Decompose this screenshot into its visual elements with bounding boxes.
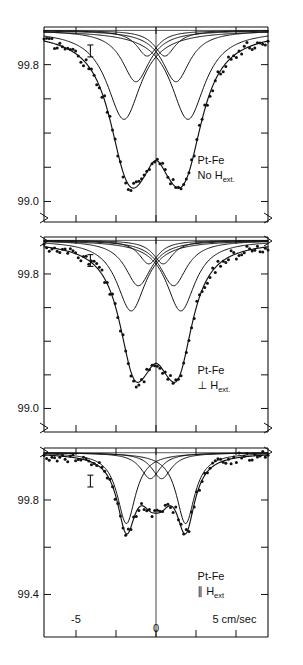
data-point bbox=[137, 383, 140, 386]
data-point bbox=[190, 158, 193, 161]
data-point bbox=[106, 476, 109, 479]
data-point bbox=[201, 290, 204, 293]
data-point bbox=[103, 281, 106, 284]
data-point bbox=[148, 368, 151, 371]
data-point bbox=[127, 188, 130, 191]
data-point bbox=[74, 251, 77, 254]
data-point bbox=[135, 515, 138, 518]
data-point bbox=[148, 508, 151, 511]
data-point bbox=[140, 502, 143, 505]
data-point bbox=[187, 530, 190, 533]
data-point bbox=[119, 160, 122, 163]
data-point bbox=[174, 378, 177, 381]
data-point bbox=[182, 183, 185, 186]
y-axis-label: 99.8 bbox=[18, 494, 39, 506]
data-point bbox=[145, 368, 148, 371]
data-point bbox=[111, 128, 114, 131]
data-point bbox=[58, 251, 61, 254]
data-point bbox=[129, 189, 132, 192]
data-point bbox=[164, 168, 167, 171]
data-point bbox=[185, 351, 188, 354]
data-point bbox=[261, 251, 264, 254]
data-point bbox=[251, 249, 254, 252]
x-axis-label-zero: 0 bbox=[153, 622, 159, 634]
field-condition-label: No Hext. bbox=[198, 169, 235, 184]
data-point bbox=[129, 528, 132, 531]
data-point bbox=[66, 460, 69, 463]
data-point bbox=[261, 450, 264, 453]
data-point bbox=[56, 459, 59, 462]
data-point bbox=[85, 58, 88, 61]
data-point bbox=[132, 182, 135, 185]
data-point bbox=[235, 461, 238, 464]
sample-label: Pt-Fe bbox=[198, 570, 225, 582]
x-axis-label-right: 5 cm/sec bbox=[212, 613, 257, 625]
data-point bbox=[50, 247, 53, 250]
data-point bbox=[119, 330, 122, 333]
data-point bbox=[195, 300, 198, 303]
data-point bbox=[122, 333, 125, 336]
data-point bbox=[151, 162, 154, 165]
data-point bbox=[145, 509, 148, 512]
data-point bbox=[214, 79, 217, 82]
data-point bbox=[82, 64, 85, 67]
data-point bbox=[209, 95, 212, 98]
field-condition-label: ∥ Hext bbox=[198, 585, 225, 600]
data-point bbox=[174, 186, 177, 189]
data-point bbox=[251, 458, 254, 461]
data-point bbox=[135, 386, 138, 389]
data-point bbox=[56, 46, 59, 49]
data-point bbox=[224, 261, 227, 264]
data-point bbox=[74, 49, 77, 52]
data-point bbox=[243, 45, 246, 48]
data-point bbox=[122, 176, 125, 179]
y-axis-label: 99.4 bbox=[18, 588, 39, 600]
data-point bbox=[161, 372, 164, 375]
y-axis-label: 99.8 bbox=[18, 59, 39, 71]
data-point bbox=[140, 378, 143, 381]
data-point bbox=[43, 37, 46, 40]
data-point bbox=[245, 452, 248, 455]
data-point bbox=[48, 459, 51, 462]
data-point bbox=[230, 58, 233, 61]
data-point bbox=[114, 302, 117, 305]
data-point bbox=[140, 177, 143, 180]
data-point bbox=[85, 255, 88, 258]
data-point bbox=[135, 180, 138, 183]
data-point bbox=[187, 171, 190, 174]
data-point bbox=[251, 48, 254, 51]
data-point bbox=[45, 37, 48, 40]
data-point bbox=[93, 462, 96, 465]
data-point bbox=[156, 365, 159, 368]
data-point bbox=[103, 94, 106, 97]
data-point bbox=[111, 485, 114, 488]
data-point bbox=[211, 266, 214, 269]
y-axis-label: 99.0 bbox=[18, 195, 39, 207]
data-point bbox=[256, 41, 259, 44]
data-point bbox=[216, 260, 219, 263]
panel-1: 99.899.0Pt-Fe⊥ Hext. bbox=[18, 236, 272, 433]
data-point bbox=[100, 269, 103, 272]
data-point bbox=[79, 259, 82, 262]
data-point bbox=[219, 458, 222, 461]
data-point bbox=[77, 256, 80, 259]
data-point bbox=[132, 516, 135, 519]
data-point bbox=[114, 498, 117, 501]
data-point bbox=[50, 37, 53, 40]
data-point bbox=[124, 182, 127, 185]
data-point bbox=[156, 158, 159, 161]
data-point bbox=[224, 462, 227, 465]
data-point bbox=[214, 271, 217, 274]
data-point bbox=[64, 458, 67, 461]
data-point bbox=[132, 380, 135, 383]
data-point bbox=[195, 138, 198, 141]
data-point bbox=[98, 86, 101, 89]
data-point bbox=[172, 511, 175, 514]
data-point bbox=[124, 349, 127, 352]
data-point bbox=[259, 250, 262, 253]
data-point bbox=[71, 453, 74, 456]
data-point bbox=[245, 245, 248, 248]
data-point bbox=[172, 178, 175, 181]
data-point bbox=[222, 260, 225, 263]
data-point bbox=[151, 364, 154, 367]
